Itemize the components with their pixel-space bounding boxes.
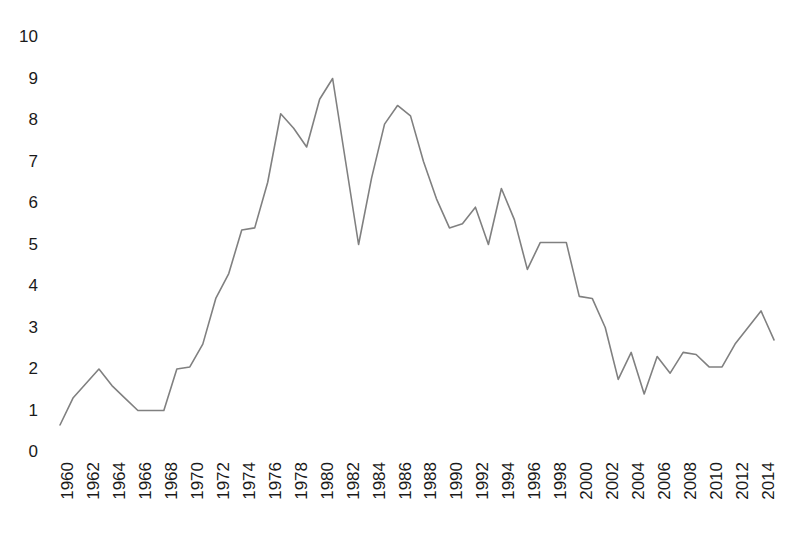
x-tick-label: 1966 [136, 462, 156, 500]
x-tick-label: 1960 [58, 462, 78, 500]
x-tick-label: 1992 [473, 462, 493, 500]
x-tick-label: 1964 [110, 462, 130, 500]
x-tick-label: 1994 [499, 462, 519, 500]
x-tick-label: 2002 [603, 462, 623, 500]
x-tick-label: 1978 [292, 462, 312, 500]
x-tick-label: 2004 [629, 462, 649, 500]
x-tick-label: 2008 [681, 462, 701, 500]
x-tick-label: 1998 [551, 462, 571, 500]
x-tick-label: 1984 [370, 462, 390, 500]
x-tick-label: 2014 [759, 462, 779, 500]
x-tick-label: 1988 [421, 462, 441, 500]
x-tick-label: 1976 [266, 462, 286, 500]
x-tick-label: 1972 [214, 462, 234, 500]
x-tick-label: 1970 [188, 462, 208, 500]
x-tick-label: 1962 [84, 462, 104, 500]
x-tick-label: 2012 [733, 462, 753, 500]
x-tick-label: 1996 [525, 462, 545, 500]
x-tick-label: 2006 [655, 462, 675, 500]
x-tick-label: 2000 [577, 462, 597, 500]
x-tick-label: 1982 [344, 462, 364, 500]
x-axis: 1960196219641966196819701972197419761978… [0, 0, 794, 537]
line-chart: 012345678910 196019621964196619681970197… [0, 0, 794, 537]
x-tick-label: 1990 [447, 462, 467, 500]
x-tick-label: 1986 [396, 462, 416, 500]
x-tick-label: 1980 [318, 462, 338, 500]
x-tick-label: 2010 [707, 462, 727, 500]
x-tick-label: 1968 [162, 462, 182, 500]
x-tick-label: 1974 [240, 462, 260, 500]
